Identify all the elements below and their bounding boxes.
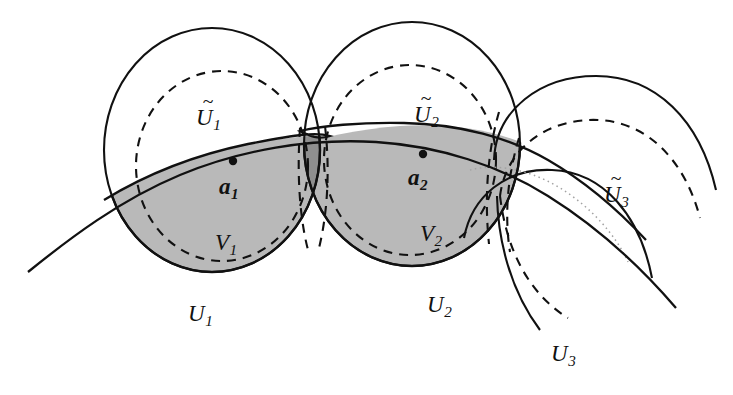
label-V2: V2 bbox=[420, 222, 442, 248]
label-U2: U2 bbox=[427, 293, 452, 319]
tilde-accent-U1: ~ bbox=[203, 92, 214, 112]
label-U3-base: U bbox=[551, 342, 568, 365]
label-V2-sub: 2 bbox=[435, 232, 443, 249]
label-V1-sub: 1 bbox=[230, 241, 238, 258]
label-a1-sub: 1 bbox=[231, 185, 239, 202]
U3-lower-dashed-tail bbox=[500, 196, 568, 318]
label-U2-tilde-sub: 2 bbox=[431, 113, 439, 130]
label-U2-base: U bbox=[427, 293, 444, 316]
V3-dashed-arc bbox=[500, 120, 700, 218]
label-V2-base: V bbox=[420, 222, 434, 245]
label-a2-base: a bbox=[408, 166, 420, 189]
label-V1: V1 bbox=[215, 231, 237, 257]
label-a2-sub: 2 bbox=[420, 176, 428, 193]
tilde-accent-U2: ~ bbox=[421, 89, 432, 109]
label-a1: a1 bbox=[219, 175, 239, 201]
label-U3-tilde: U~3 bbox=[604, 183, 629, 209]
label-U1-tilde: U~1 bbox=[196, 106, 221, 132]
label-U2-tilde: U~2 bbox=[414, 103, 439, 129]
label-a2: a2 bbox=[408, 166, 428, 192]
label-a1-base: a bbox=[219, 175, 231, 198]
label-U3-sub: 3 bbox=[568, 352, 576, 369]
label-U1-sub: 1 bbox=[205, 312, 213, 329]
point-a1 bbox=[229, 157, 237, 165]
label-U3-tilde-sub: 3 bbox=[621, 193, 629, 210]
tilde-accent-U3: ~ bbox=[611, 169, 622, 189]
label-U1: U1 bbox=[188, 302, 213, 328]
label-U1-tilde-sub: 1 bbox=[213, 116, 221, 133]
label-U3: U3 bbox=[551, 342, 576, 368]
label-U1-base: U bbox=[188, 302, 205, 325]
label-V1-base: V bbox=[215, 231, 229, 254]
figure-root: U~1 U~2 U~3 a1 a2 V1 V2 U1 U2 U3 bbox=[0, 0, 733, 395]
point-a2 bbox=[419, 150, 427, 158]
label-U2-sub: 2 bbox=[444, 303, 452, 320]
